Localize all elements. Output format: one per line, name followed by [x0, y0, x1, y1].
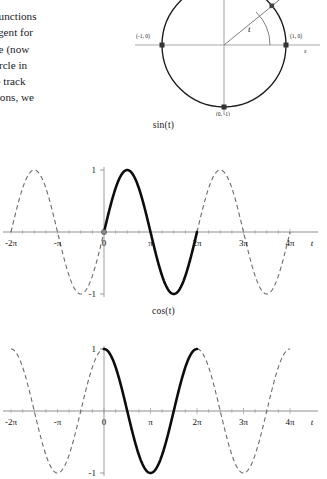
cos-ytick-label: 1: [92, 344, 97, 354]
sin-xtick-label: 2π: [192, 238, 202, 248]
body-text-line: n. If we track: [0, 73, 110, 89]
cos-xtick-label: -2π: [5, 417, 17, 427]
point-marker-on-circle: [270, 4, 275, 9]
bottom-point-label: (0, -1): [216, 111, 230, 116]
body-text-column: riodic functions ave tangent for he angl…: [0, 8, 110, 106]
sin-xtick-label: -2π: [5, 238, 17, 248]
cos-xtick-label: -π: [54, 417, 62, 427]
right-point-label: (1, 0): [290, 33, 302, 40]
cos-xtick-label: 0: [102, 417, 107, 427]
unit-circle-figure: t (-1, 0) (1, 0) (0, -1) x: [132, 0, 327, 116]
body-text-line: d the circle in: [0, 57, 110, 73]
sin-marked-point: [101, 229, 106, 234]
unit-circle-svg: t (-1, 0) (1, 0) (0, -1) x: [132, 0, 327, 116]
cos-plot: cos(t) -2π-π0π2π3π4πt1-1: [0, 306, 327, 479]
sin-xtick-label: 0: [102, 238, 107, 248]
point-marker-bottom: [222, 105, 227, 110]
sin-plot: sin(t) -2π-π0π2π3π4πt1-1: [0, 120, 327, 300]
sin-xtick-label: 4π: [285, 238, 295, 248]
point-marker-right: [284, 43, 289, 48]
body-text-line: ave tangent for: [0, 24, 110, 40]
cos-x-axis-label: t: [311, 417, 314, 427]
sin-ytick-label: -1: [89, 289, 97, 299]
sin-xtick-label: 3π: [239, 238, 249, 248]
body-text-line: he angle (now: [0, 41, 110, 57]
body-text-line: e functions, we: [0, 89, 110, 105]
sin-ytick-label: 1: [92, 165, 97, 175]
body-text-line: riodic functions: [0, 8, 110, 24]
cos-xtick-label: π: [148, 417, 153, 427]
cos-xtick-label: 4π: [285, 417, 295, 427]
sin-x-axis-label: t: [311, 238, 314, 248]
sin-xtick-label: π: [148, 238, 153, 248]
circle-x-axis-label: x: [303, 48, 307, 54]
sin-plot-svg: -2π-π0π2π3π4πt1-1: [0, 120, 327, 300]
angle-label: t: [248, 24, 251, 34]
point-marker-left: [160, 43, 165, 48]
ray-extension: [272, 0, 292, 6]
cos-plot-svg: -2π-π0π2π3π4πt1-1: [0, 306, 327, 479]
cos-xtick-label: 3π: [239, 417, 249, 427]
left-point-label: (-1, 0): [136, 33, 150, 40]
cos-xtick-label: 2π: [192, 417, 202, 427]
cos-ytick-label: -1: [89, 468, 97, 478]
sin-xtick-label: -π: [54, 238, 62, 248]
